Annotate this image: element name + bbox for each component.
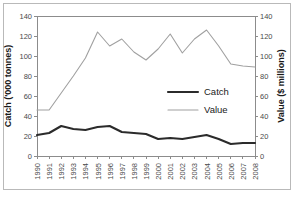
- series-line-catch: [37, 126, 255, 144]
- x-tick-label: 2003: [190, 163, 199, 180]
- y-tick-label-left: 100: [19, 52, 32, 61]
- line-chart-plot: 0204060801001201400204060801001201401990…: [0, 0, 294, 198]
- x-tick-label: 1991: [45, 163, 54, 180]
- x-tick-label: 2000: [154, 163, 163, 180]
- x-tick-label: 2005: [215, 163, 224, 180]
- y-tick-label-right: 100: [260, 52, 273, 61]
- y-tick-label-left: 120: [19, 32, 32, 41]
- x-tick-label: 2006: [227, 163, 236, 180]
- x-tick-label: 2004: [203, 163, 212, 180]
- y-axis-title-right: Value ($ millions): [276, 49, 286, 123]
- y-tick-label-left: 80: [24, 72, 32, 81]
- y-tick-label-right: 140: [260, 12, 273, 21]
- x-tick-label: 1994: [81, 163, 90, 180]
- y-tick-label-left: 140: [19, 12, 32, 21]
- y-tick-label-right: 0: [260, 152, 264, 161]
- x-tick-label: 2002: [178, 163, 187, 180]
- y-tick-label-right: 40: [260, 112, 268, 121]
- y-tick-label-right: 120: [260, 32, 273, 41]
- y-tick-label-left: 40: [24, 112, 32, 121]
- y-tick-label-right: 20: [260, 132, 268, 141]
- x-tick-label: 1990: [33, 163, 42, 180]
- x-tick-label: 1996: [106, 163, 115, 180]
- x-tick-label: 1993: [69, 163, 78, 180]
- x-tick-label: 1999: [142, 163, 151, 180]
- x-tick-label: 2008: [251, 163, 260, 180]
- y-tick-label-left: 20: [24, 132, 32, 141]
- x-tick-label: 1992: [57, 163, 66, 180]
- chart-figure: 0204060801001201400204060801001201401990…: [0, 0, 294, 198]
- x-tick-label: 1998: [130, 163, 139, 180]
- x-tick-label: 1997: [118, 163, 127, 180]
- y-tick-label-right: 60: [260, 92, 268, 101]
- legend-label-catch: Catch: [204, 86, 229, 97]
- y-axis-title-left: Catch ('000 tonnes): [3, 45, 13, 128]
- y-tick-label-right: 80: [260, 72, 268, 81]
- x-tick-label: 1995: [94, 163, 103, 180]
- series-line-value: [37, 30, 255, 110]
- y-tick-label-left: 0: [28, 152, 32, 161]
- y-tick-label-left: 60: [24, 92, 32, 101]
- x-tick-label: 2001: [166, 163, 175, 180]
- legend-label-value: Value: [204, 104, 228, 115]
- x-tick-label: 2007: [239, 163, 248, 180]
